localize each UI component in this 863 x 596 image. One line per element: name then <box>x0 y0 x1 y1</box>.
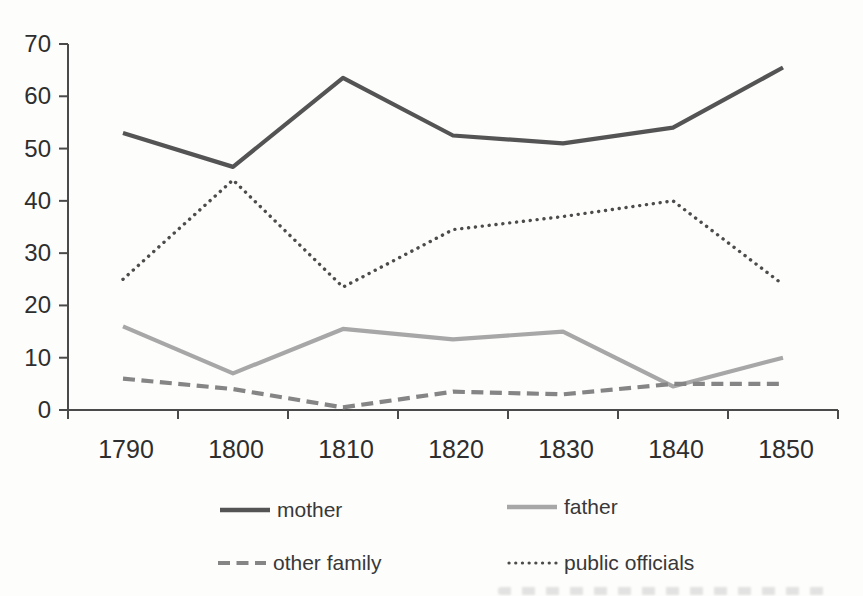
legend-swatch-other-family-line <box>216 558 268 568</box>
series-line-mother <box>123 68 783 167</box>
series-line-public-officials <box>123 180 783 287</box>
y-tick-label: 60 <box>24 82 51 109</box>
y-tick-label: 70 <box>24 30 51 57</box>
x-tick-label: 1830 <box>538 435 594 463</box>
x-tick-label: 1800 <box>208 435 264 463</box>
y-tick-label: 50 <box>24 135 51 162</box>
legend-label-mother: mother <box>277 498 342 522</box>
series-line-other-family <box>123 379 783 408</box>
y-tick-label: 40 <box>24 187 51 214</box>
legend-swatch-mother-line <box>218 505 272 515</box>
x-tick-label: 1810 <box>318 435 374 463</box>
x-tick-label: 1840 <box>648 435 704 463</box>
y-tick-label: 0 <box>38 396 51 423</box>
y-tick-label: 10 <box>24 344 51 371</box>
legend-item-mother: mother <box>218 498 342 522</box>
x-tick-label: 1790 <box>98 435 154 463</box>
legend-label-other-family: other family <box>273 551 382 575</box>
legend-label-public-officials: public officials <box>564 551 694 575</box>
legend-item-public-officials: public officials <box>507 551 694 575</box>
chart-page: 0102030405060701790180018101820183018401… <box>0 0 863 596</box>
x-tick-label: 1820 <box>428 435 484 463</box>
legend-item-father: father <box>505 495 618 519</box>
x-tick-label: 1850 <box>758 435 814 463</box>
y-tick-label: 30 <box>24 239 51 266</box>
legend-swatch-father-line <box>505 502 559 512</box>
series-line-father <box>123 326 783 386</box>
legend-item-other-family: other family <box>216 551 382 575</box>
scan-artifact <box>498 587 828 595</box>
line-chart-plot: 0102030405060701790180018101820183018401… <box>0 0 863 472</box>
legend-swatch-public-officials-line <box>507 558 559 568</box>
y-tick-label: 20 <box>24 291 51 318</box>
legend-label-father: father <box>564 495 618 519</box>
